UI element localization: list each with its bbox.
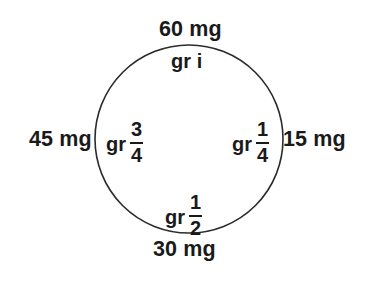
grains-prefix-right: gr: [232, 134, 252, 154]
fraction-left: 3 4: [130, 119, 143, 166]
grains-prefix-bottom: gr: [165, 207, 185, 227]
label-right-outer-milligrams: 15 mg: [283, 129, 346, 151]
fraction-denominator-right: 4: [256, 145, 269, 167]
fraction-denominator-bottom: 2: [189, 218, 202, 240]
grains-prefix-left: gr: [106, 134, 126, 154]
label-right-inner-grains-fraction: gr 1 4: [232, 119, 269, 166]
fraction-numerator-bottom: 1: [189, 192, 202, 214]
fraction-bottom: 1 2: [189, 192, 202, 239]
diagram-canvas: 60 mg gr i 45 mg gr 3 4 gr 1 4 15 mg gr …: [0, 0, 371, 288]
label-top-outer-milligrams: 60 mg: [159, 19, 222, 41]
fraction-numerator-left: 3: [130, 119, 143, 141]
label-left-inner-grains-fraction: gr 3 4: [106, 119, 143, 166]
fraction-right: 1 4: [256, 119, 269, 166]
fraction-denominator-left: 4: [130, 145, 143, 167]
label-bottom-inner-grains-fraction: gr 1 2: [165, 192, 202, 239]
label-top-inner-grains: gr i: [171, 51, 203, 71]
label-left-outer-milligrams: 45 mg: [29, 129, 92, 151]
fraction-numerator-right: 1: [256, 119, 269, 141]
label-bottom-outer-milligrams: 30 mg: [153, 239, 216, 261]
